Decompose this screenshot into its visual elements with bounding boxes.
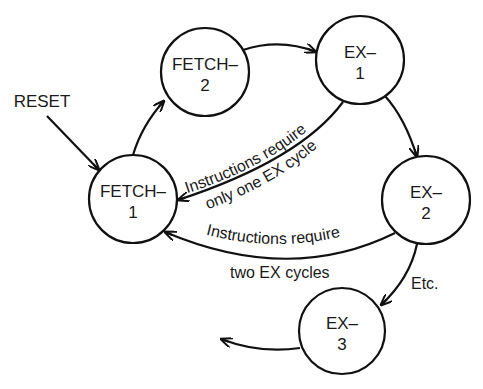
node-ex3: EX– 3 xyxy=(299,288,385,374)
node-ex2: EX– 2 xyxy=(382,156,470,244)
node-ex2-line2: 2 xyxy=(421,204,430,223)
node-ex1-line1: EX– xyxy=(344,43,377,62)
node-fetch1-line1: FETCH– xyxy=(100,182,167,201)
edge-fetch2-to-ex1 xyxy=(243,44,316,52)
edge-reset-to-fetch1 xyxy=(47,116,99,170)
node-ex1: EX– 1 xyxy=(316,16,404,104)
state-diagram: Instructions require only one EX cycle I… xyxy=(0,0,483,389)
edge-label-etc: Etc. xyxy=(411,275,439,292)
node-ex1-line2: 1 xyxy=(355,64,364,83)
edge-label-two-cycles-line2: two EX cycles xyxy=(230,264,330,281)
node-fetch2-line2: 2 xyxy=(200,76,209,95)
node-ex2-line1: EX– xyxy=(410,183,443,202)
edge-ex3-continuation xyxy=(221,339,300,350)
node-ex3-line2: 3 xyxy=(337,335,346,354)
edge-label-two-cycles-line1: Instructions require xyxy=(205,221,341,247)
node-fetch1: FETCH– 1 xyxy=(89,155,177,243)
node-fetch1-line2: 1 xyxy=(128,203,137,222)
edge-ex1-to-ex2 xyxy=(385,96,417,157)
node-fetch2-line1: FETCH– xyxy=(172,55,239,74)
reset-label: RESET xyxy=(14,92,71,111)
node-ex3-line1: EX– xyxy=(326,314,359,333)
edge-fetch1-to-fetch2 xyxy=(133,101,164,155)
node-fetch2: FETCH– 2 xyxy=(161,28,249,116)
